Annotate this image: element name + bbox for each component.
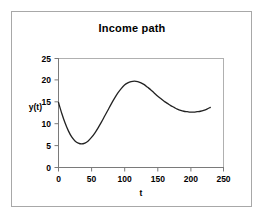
y-tick-label-25: 25	[42, 54, 52, 64]
x-axis-title: t	[140, 188, 143, 198]
x-tick-label-100: 100	[118, 174, 132, 184]
x-tick-label-200: 200	[184, 174, 198, 184]
chart-plot-svg: 0 5 10 15 20 25 0 50 100 150 200 250 y(t…	[0, 0, 264, 220]
x-tick-label-50: 50	[87, 174, 97, 184]
y-tick-label-0: 0	[46, 163, 51, 173]
x-axis-ticks	[59, 168, 224, 172]
income-path-line	[59, 81, 211, 144]
y-tick-label-10: 10	[42, 119, 52, 129]
y-axis-title: y(t)	[29, 102, 42, 112]
x-tick-label-150: 150	[151, 174, 165, 184]
x-tick-label-0: 0	[56, 174, 61, 184]
y-axis-ticks	[55, 59, 59, 168]
y-tick-label-20: 20	[42, 75, 52, 85]
chart-screenshot: Income path 0 5 10 15	[0, 0, 264, 220]
y-tick-label-15: 15	[42, 97, 52, 107]
x-tick-label-250: 250	[216, 174, 230, 184]
y-tick-label-5: 5	[46, 141, 51, 151]
